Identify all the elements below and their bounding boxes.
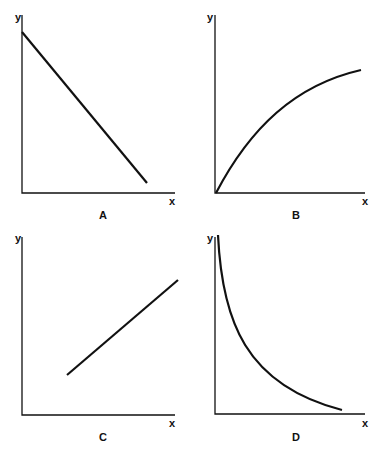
panel-b-y-label: y — [207, 12, 213, 23]
panel-a-x-label: x — [169, 196, 175, 207]
panel-d-title: D — [292, 432, 300, 443]
panel-a — [22, 15, 175, 193]
panel-c-curve — [67, 280, 178, 375]
panel-a-title: A — [99, 210, 107, 221]
panel-d-y-label: y — [207, 233, 213, 244]
panel-c-x-label: x — [169, 418, 175, 429]
panel-c — [22, 237, 178, 415]
panel-a-y-label: y — [15, 12, 21, 23]
panel-d-curve — [218, 235, 342, 410]
panel-b-x-label: x — [362, 196, 368, 207]
panel-b-axes — [215, 15, 365, 193]
panel-c-axes — [22, 237, 175, 415]
panel-c-title: C — [99, 432, 107, 443]
panel-b-title: B — [292, 210, 300, 221]
panel-a-axes — [22, 15, 175, 193]
panel-c-y-label: y — [15, 233, 21, 244]
panel-b — [215, 15, 365, 193]
panel-d-axes — [215, 237, 365, 414]
panel-a-curve — [22, 32, 147, 183]
graphs-figure — [0, 0, 384, 453]
panel-d-x-label: x — [362, 418, 368, 429]
panel-d — [215, 235, 365, 414]
panel-b-curve — [216, 70, 361, 193]
